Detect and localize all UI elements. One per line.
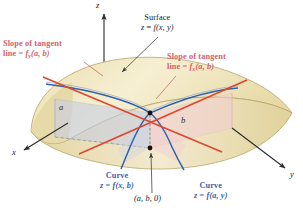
surface-annotation-line1: Surface xyxy=(141,13,174,23)
tangent-fy-annotation: Slope of tangent line = fy(a, b) xyxy=(3,39,62,59)
tangent-fx-prefix: line = xyxy=(167,62,189,71)
curve-xb-annotation: Curve z = f(x, b) xyxy=(100,171,134,190)
curve-ay-annotation: Curve z = f(a, y) xyxy=(194,181,228,200)
axis-label-x: x xyxy=(12,148,16,158)
curve-ay-args: (a, y) xyxy=(209,191,227,200)
partial-derivative-surface-figure: z x y a b Surface z = f(x, y) Slope of t… xyxy=(0,0,303,212)
curve-xb-line1: Curve xyxy=(100,171,134,181)
curve-ay-equals: = xyxy=(197,191,206,200)
curve-xb-equals: = xyxy=(103,181,112,190)
surface-args: (x, y) xyxy=(156,23,174,32)
axis-label-z: z xyxy=(96,1,99,11)
axis-label-y: y xyxy=(290,170,294,180)
tangent-fx-line1: Slope of tangent xyxy=(167,52,226,62)
base-point-annotation: (a, b, 0) xyxy=(134,194,161,204)
surface-annotation-line2: z = f(x, y) xyxy=(141,23,174,33)
mark-label-b: b xyxy=(181,116,185,126)
surface-annotation: Surface z = f(x, y) xyxy=(141,13,174,32)
tangent-fx-args: (a, b) xyxy=(195,62,214,71)
curve-xb-line2: z = f(x, b) xyxy=(100,181,134,191)
curve-xb-args: (x, b) xyxy=(115,181,134,190)
tangent-fy-line1: Slope of tangent xyxy=(3,39,62,49)
tangent-fy-line2: line = fy(a, b) xyxy=(3,49,62,60)
tangent-fy-prefix: line = xyxy=(3,49,25,58)
curve-ay-line2: z = f(a, y) xyxy=(194,191,228,201)
mark-label-a: a xyxy=(59,103,63,113)
tangency-point xyxy=(148,111,153,116)
base-point-a-b-0 xyxy=(148,146,153,151)
curve-ay-line1: Curve xyxy=(194,181,228,191)
tangent-fy-args: (a, b) xyxy=(31,49,50,58)
tangent-fx-line2: line = fx(a, b) xyxy=(167,62,226,73)
tangent-fx-annotation: Slope of tangent line = fx(a, b) xyxy=(167,52,226,72)
